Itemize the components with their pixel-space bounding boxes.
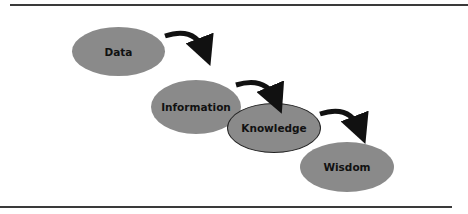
- curved-arrow-icon: [236, 83, 276, 100]
- curved-arrow-icon: [320, 111, 360, 130]
- arrows-layer: [0, 0, 468, 214]
- curved-arrow-icon: [165, 33, 205, 52]
- bottom-rule: [0, 206, 452, 208]
